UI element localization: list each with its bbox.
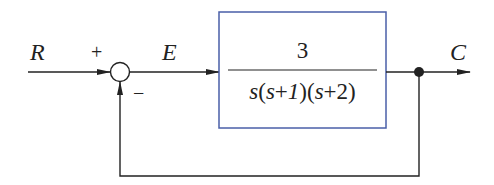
minus-sign: − [133, 82, 144, 104]
block-diagram: 3 s(s+1)(s+2) R + E − C [0, 0, 494, 185]
plus-sign: + [91, 41, 102, 63]
block-denominator: s(s+1)(s+2) [249, 79, 355, 104]
error-label: E [161, 39, 177, 65]
summing-junction [111, 63, 130, 82]
input-label: R [29, 39, 45, 65]
block-numerator: 3 [297, 38, 309, 63]
output-label: C [450, 39, 467, 65]
